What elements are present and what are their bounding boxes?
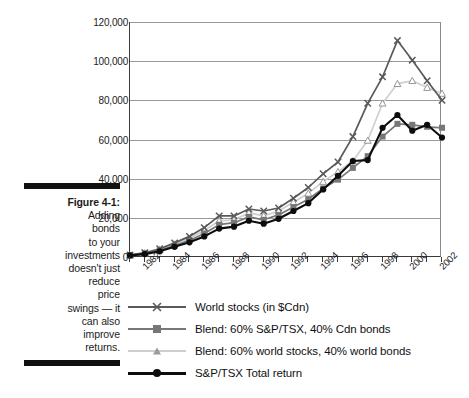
data-point — [305, 200, 311, 206]
line-chart: 020,00040,00060,00080,000100,000120,000 … — [0, 0, 469, 300]
data-point — [365, 157, 371, 163]
series-blend-world — [127, 77, 446, 258]
y-tick-label: 120,000 — [93, 17, 128, 28]
data-point — [394, 112, 400, 118]
legend-key — [128, 366, 186, 380]
data-point — [231, 224, 237, 230]
series-blend-cdn — [127, 121, 445, 258]
y-tick-label: 80,000 — [99, 95, 128, 106]
caption-rule-bottom — [24, 360, 120, 366]
data-point — [350, 165, 356, 171]
legend-item-1[interactable]: Blend: 60% S&P/TSX, 40% Cdn bonds — [128, 318, 458, 340]
caption-line-8: can also — [82, 315, 120, 327]
data-point — [320, 186, 326, 192]
legend-key — [128, 322, 186, 336]
data-point — [424, 78, 430, 84]
data-point — [409, 128, 415, 134]
figure-container: Figure 4-1: Adding bonds to your investm… — [0, 0, 469, 398]
y-tick-label: 60,000 — [99, 134, 128, 145]
data-point — [335, 173, 341, 179]
legend-item-2[interactable]: Blend: 60% world stocks, 40% world bonds — [128, 340, 458, 362]
legend-label: Blend: 60% world stocks, 40% world bonds — [195, 345, 411, 357]
legend-marker-triangle-icon — [153, 348, 161, 355]
data-point — [246, 218, 252, 224]
legend-item-3[interactable]: S&P/TSX Total return — [128, 362, 458, 384]
data-point — [186, 239, 192, 245]
series-line — [130, 81, 442, 255]
series-line — [130, 41, 442, 255]
data-point — [335, 159, 341, 165]
legend-key — [128, 344, 186, 358]
chart-legend: World stocks (in $Cdn)Blend: 60% S&P/TSX… — [128, 296, 458, 384]
data-point — [275, 216, 281, 222]
series-sptsx — [127, 112, 445, 259]
data-point — [320, 171, 326, 177]
data-point — [364, 137, 371, 143]
y-tick-label: 100,000 — [93, 56, 128, 67]
data-point — [424, 122, 430, 128]
series-world-stocks — [127, 37, 445, 258]
data-point — [261, 221, 267, 227]
data-point — [439, 97, 445, 103]
legend-marker-x-icon — [152, 298, 162, 316]
data-point — [365, 100, 371, 106]
legend-key — [128, 300, 186, 314]
legend-label: Blend: 60% S&P/TSX, 40% Cdn bonds — [195, 323, 391, 335]
data-point — [290, 208, 296, 214]
caption-line-7: swings — it — [67, 302, 120, 314]
plot-area — [129, 22, 441, 257]
data-point — [409, 122, 415, 128]
legend-label: S&P/TSX Total return — [195, 367, 302, 379]
data-point — [394, 121, 400, 127]
data-point — [216, 226, 222, 232]
data-point — [439, 125, 445, 131]
legend-marker-square-icon — [153, 325, 161, 333]
data-point — [394, 37, 400, 43]
series-line — [130, 115, 442, 255]
series-line — [130, 124, 442, 255]
data-point — [409, 57, 415, 63]
caption-line-9: improve — [83, 328, 120, 340]
data-point — [379, 125, 385, 131]
data-point — [379, 74, 385, 80]
legend-label: World stocks (in $Cdn) — [195, 301, 309, 313]
data-point — [201, 233, 207, 239]
data-point — [350, 133, 356, 139]
legend-marker-circle-icon — [153, 369, 161, 377]
y-axis-labels: 020,00040,00060,00080,000100,000120,000 — [86, 0, 128, 270]
data-point — [171, 244, 177, 250]
legend-item-0[interactable]: World stocks (in $Cdn) — [128, 296, 458, 318]
y-tick-label: 20,000 — [99, 212, 128, 223]
y-tick-label: 40,000 — [99, 173, 128, 184]
data-point — [439, 134, 445, 140]
data-point — [350, 158, 356, 164]
series-canvas — [130, 22, 442, 257]
caption-line-10: returns. — [85, 341, 120, 353]
